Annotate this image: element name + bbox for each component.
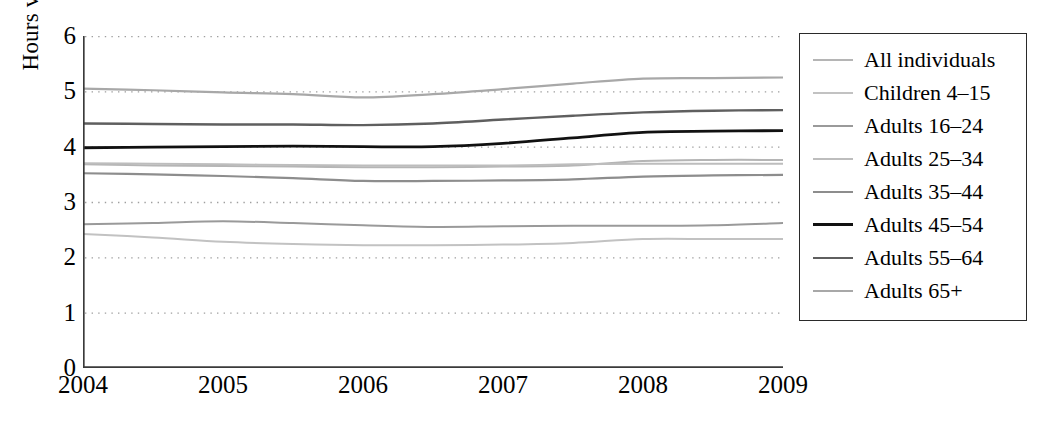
- line-chart-svg: [83, 36, 783, 368]
- legend-item-6[interactable]: Adults 55–64: [800, 241, 1026, 274]
- legend-line-swatch-icon: [813, 59, 853, 61]
- legend-item-0[interactable]: All individuals: [800, 43, 1026, 76]
- legend-line-swatch-icon: [813, 158, 853, 160]
- x-tick-label: 2006: [338, 372, 388, 397]
- y-tick-label: 3: [42, 189, 76, 214]
- series-line-4: [83, 173, 783, 181]
- legend-line-swatch-icon: [813, 290, 853, 292]
- x-tick-label: 2004: [58, 372, 108, 397]
- y-tick-label: 2: [42, 244, 76, 269]
- series-line-2: [83, 221, 783, 227]
- y-tick-label: 4: [42, 134, 76, 159]
- legend-item-5[interactable]: Adults 45–54: [800, 208, 1026, 241]
- plot-area: [83, 36, 783, 368]
- x-axis-tick-labels: 200420052006200720082009: [0, 372, 1039, 406]
- x-tick-label: 2005: [198, 372, 248, 397]
- legend-line-swatch-icon: [813, 257, 853, 259]
- legend-item-7[interactable]: Adults 65+: [800, 274, 1026, 307]
- legend-item-label: Children 4–15: [864, 82, 991, 104]
- legend-line-swatch-icon: [813, 125, 853, 127]
- legend-item-label: Adults 25–34: [864, 148, 983, 170]
- chart-figure: Hours viewed 6543210 2004200520062007200…: [0, 0, 1039, 428]
- legend-item-label: Adults 55–64: [864, 247, 983, 269]
- legend-item-label: Adults 45–54: [864, 214, 983, 236]
- series-line-5: [83, 131, 783, 148]
- legend-item-label: Adults 35–44: [864, 181, 983, 203]
- legend-item-1[interactable]: Children 4–15: [800, 76, 1026, 109]
- y-axis-tick-labels: 6543210: [36, 36, 76, 368]
- legend-item-4[interactable]: Adults 35–44: [800, 175, 1026, 208]
- legend-line-swatch-icon: [813, 223, 853, 226]
- y-tick-label: 6: [42, 23, 76, 48]
- legend-item-label: Adults 16–24: [864, 115, 983, 137]
- y-tick-label: 1: [42, 300, 76, 325]
- legend-item-3[interactable]: Adults 25–34: [800, 142, 1026, 175]
- series-line-6: [83, 110, 783, 125]
- series-line-1: [83, 234, 783, 245]
- series-line-7: [83, 78, 783, 98]
- chart-legend: All individualsChildren 4–15Adults 16–24…: [799, 33, 1027, 321]
- legend-item-2[interactable]: Adults 16–24: [800, 109, 1026, 142]
- legend-line-swatch-icon: [813, 191, 853, 193]
- x-tick-label: 2009: [758, 372, 808, 397]
- x-tick-label: 2008: [618, 372, 668, 397]
- legend-item-label: All individuals: [864, 49, 995, 71]
- legend-line-swatch-icon: [813, 92, 853, 94]
- legend-item-label: Adults 65+: [864, 280, 963, 302]
- y-tick-label: 5: [42, 78, 76, 103]
- x-tick-label: 2007: [478, 372, 528, 397]
